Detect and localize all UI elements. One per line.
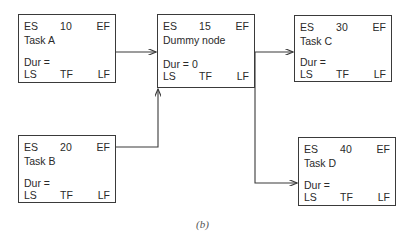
ef-label: EF [373, 21, 386, 33]
node-value: 30 [336, 21, 348, 33]
lf-label: LF [378, 191, 390, 203]
node-task-c: ES30EF Task C Dur = LSTFLF [294, 15, 392, 82]
node-name: Task A [24, 34, 55, 46]
ls-label: LS [24, 68, 37, 80]
edge-b-dummy [116, 89, 158, 147]
ef-label: EF [97, 141, 110, 153]
node-name: Task D [304, 157, 336, 169]
ls-label: LS [300, 68, 313, 80]
node-task-d: ES40EF Task D Dur = LSTFLF [298, 137, 396, 206]
node-name: Dummy node [163, 34, 225, 46]
duration-label: Dur = [300, 56, 326, 68]
duration-label: Dur = [24, 56, 50, 68]
node-value: 10 [60, 20, 72, 32]
node-name: Task C [300, 35, 332, 47]
lf-label: LF [98, 68, 110, 80]
edge-dummy-d [255, 52, 297, 183]
es-label: ES [163, 20, 177, 32]
lf-label: LF [98, 189, 110, 201]
tf-label: TF [340, 191, 353, 203]
duration-label: Dur = [304, 179, 330, 191]
node-value: 40 [340, 143, 352, 155]
node-value: 20 [60, 141, 72, 153]
ls-label: LS [163, 70, 176, 82]
node-task-b: ES20EF Task B Dur = LSTFLF [18, 135, 116, 203]
es-label: ES [24, 141, 38, 153]
tf-label: TF [336, 68, 349, 80]
ls-label: LS [24, 189, 37, 201]
es-label: ES [304, 143, 318, 155]
ef-label: EF [97, 20, 110, 32]
tf-label: TF [199, 70, 212, 82]
node-dummy: ES15EF Dummy node Dur = 0 LSTFLF [157, 14, 255, 88]
es-label: ES [300, 21, 314, 33]
duration-label: Dur = [24, 177, 50, 189]
figure-caption: (b) [196, 218, 209, 230]
node-task-a: ES10EF Task A Dur = LSTFLF [18, 14, 116, 83]
ef-label: EF [236, 20, 249, 32]
duration-label: Dur = 0 [163, 58, 198, 70]
es-label: ES [24, 20, 38, 32]
tf-label: TF [60, 68, 73, 80]
ef-label: EF [377, 143, 390, 155]
tf-label: TF [60, 189, 73, 201]
lf-label: LF [374, 68, 386, 80]
node-value: 15 [199, 20, 211, 32]
node-name: Task B [24, 155, 56, 167]
ls-label: LS [304, 191, 317, 203]
lf-label: LF [237, 70, 249, 82]
